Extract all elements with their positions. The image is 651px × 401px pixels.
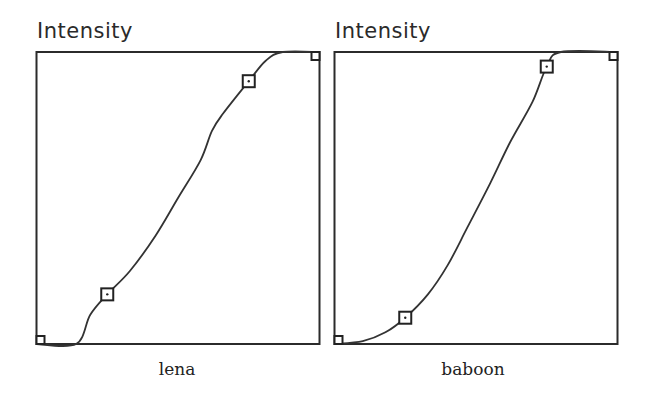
- baboon-curve-plot[interactable]: [333, 0, 633, 360]
- curve-control-point[interactable]: [312, 52, 320, 60]
- curve-control-point[interactable]: [399, 312, 411, 324]
- panel-caption: lena: [27, 359, 327, 379]
- curve-control-point[interactable]: [101, 288, 113, 300]
- plot-frame: [335, 52, 618, 344]
- curve-control-point[interactable]: [335, 336, 343, 344]
- baboon-curve-panel: Intensity baboon: [333, 0, 633, 401]
- lena-curve-plot[interactable]: [35, 0, 335, 360]
- lena-curve-panel: Intensity lena: [35, 0, 335, 401]
- curve-control-point[interactable]: [541, 61, 553, 73]
- curve-control-point[interactable]: [243, 75, 255, 87]
- curve-control-point[interactable]: [610, 52, 618, 60]
- curve-control-point[interactable]: [37, 336, 45, 344]
- panel-caption: baboon: [323, 359, 623, 379]
